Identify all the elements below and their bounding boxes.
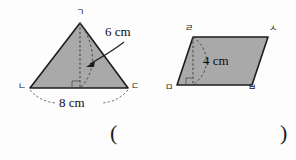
triangle-height-label: 6 cm bbox=[105, 25, 131, 38]
base-measure-left bbox=[30, 90, 56, 103]
triangle-vertex-label-apex: ㄱ bbox=[76, 8, 84, 17]
parallelogram-vertex-label-bottom-right: ㅂ bbox=[248, 83, 256, 92]
parallelogram-height-label: 4 cm bbox=[203, 54, 229, 67]
parallelogram-vertex-label-bottom-left: ㅁ bbox=[165, 83, 173, 92]
parallelogram-vertex-label-top-left: ㄹ bbox=[185, 24, 193, 33]
parallelogram-vertex-label-top-right: ㅅ bbox=[269, 24, 277, 33]
answer-open-paren: ( bbox=[110, 122, 117, 144]
triangle-base-label: 8 cm bbox=[59, 96, 85, 109]
worksheet-image: ㄱ ㄴ ㄷ 6 cm 8 cm ㄹ ㅅ ㅁ ㅂ 4 cm ( ) bbox=[0, 0, 296, 160]
base-measure-right bbox=[102, 90, 128, 103]
answer-close-paren: ) bbox=[280, 122, 287, 144]
triangle-vertex-label-bottom-left: ㄴ bbox=[18, 82, 26, 91]
triangle-vertex-label-bottom-right: ㄷ bbox=[131, 82, 139, 91]
geometry-figures bbox=[0, 0, 296, 160]
